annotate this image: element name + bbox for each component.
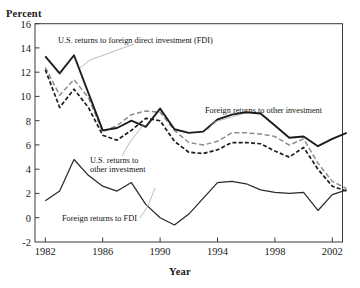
y-tick-2: 2 [26,188,31,199]
x-tick-labels: 1982 1986 1990 1994 1998 2002 [35,246,343,257]
y-tick-14: 14 [21,43,32,54]
series-group [45,55,346,225]
annotation-us-returns-other-line2: other investment [90,165,146,174]
y-tick-neg2: -2 [22,237,31,248]
y-tick-6: 6 [26,140,31,151]
x-tick-1986: 1986 [92,246,113,257]
y-tick-8: 8 [26,116,31,127]
x-tick-1982: 1982 [35,246,56,257]
y-tick-10: 10 [21,91,32,102]
x-tick-1998: 1998 [264,246,285,257]
x-tick-marks [45,238,332,243]
plot-svg: 16 14 12 10 8 6 4 2 0 -2 [0,0,360,288]
y-tick-16: 16 [21,19,32,30]
x-tick-1990: 1990 [150,246,171,257]
annotation-us-returns-other-line1: U.S. returns to [90,156,138,165]
y-tick-0: 0 [26,213,31,224]
x-tick-1994: 1994 [207,246,229,257]
y-axis-title: Percent [6,8,42,19]
x-tick-2002: 2002 [322,246,343,257]
x-axis-title: Year [0,266,360,277]
annotation-foreign-returns-other: Foreign returns to other investment [205,106,323,115]
y-tick-12: 12 [21,67,32,78]
y-tick-marks [35,24,40,218]
annotation-foreign-returns-fdi: Foreign returns to FDI [62,214,137,223]
y-tick-labels: 16 14 12 10 8 6 4 2 0 -2 [21,19,32,248]
y-tick-4: 4 [26,164,32,175]
annotation-us-returns-fdi: U.S. returns to foreign direct investmen… [58,36,213,45]
chart-figure: Percent Year 16 14 12 10 8 6 4 2 0 -2 [0,0,360,288]
series-us-returns-foreign-direct-investment [45,55,346,146]
